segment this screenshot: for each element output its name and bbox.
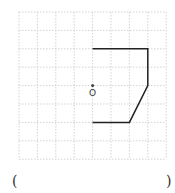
answer-close-paren: ) bbox=[166, 174, 171, 188]
answer-open-paren: ( bbox=[12, 174, 17, 188]
center-point-label: O bbox=[89, 88, 96, 98]
answer-blank[interactable] bbox=[24, 174, 164, 190]
grid-diagram: O bbox=[0, 0, 175, 193]
